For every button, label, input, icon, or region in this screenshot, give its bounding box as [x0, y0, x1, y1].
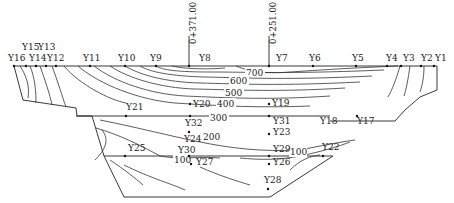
point-label-y3: Y3 — [402, 53, 415, 63]
chainage-marker-1: 0+371.00 — [188, 2, 198, 66]
point-label-y32: Y32 — [184, 118, 202, 128]
point-label-y4: Y4 — [385, 53, 398, 63]
point-label-y8: Y8 — [198, 53, 211, 63]
point-label-y25: Y25 — [127, 143, 146, 153]
contour-label-600: 600 — [230, 76, 247, 86]
point-label-y30: Y30 — [177, 145, 196, 155]
point-label-y29: Y29 — [272, 144, 291, 154]
cross-section-diagram: 0+371.00 0+251.00 — [0, 0, 454, 203]
chainage-label: 0+371.00 — [188, 2, 198, 44]
point-label-y22: Y22 — [321, 142, 339, 152]
interior-points: Y21 Y20 Y19 Y32 Y31 Y18 Y17 Y23 Y24 Y30 … — [124, 98, 375, 190]
point-label-y20: Y20 — [192, 99, 211, 109]
contour-label-400: 400 — [217, 99, 234, 109]
point-label-y14: Y14 — [28, 53, 47, 63]
point-label-y2: Y2 — [420, 53, 433, 63]
contour-lines — [20, 66, 424, 190]
contour-label-200: 200 — [203, 132, 220, 142]
point-label-y18: Y18 — [319, 116, 338, 126]
point-label-y24: Y24 — [183, 134, 202, 144]
point-label-y1: Y1 — [434, 53, 447, 63]
surface-labels: Y15 Y13 Y16 Y14 Y12 Y11 Y10 Y9 Y8 Y7 Y6 … — [7, 42, 447, 63]
contour-label-100-right: 100 — [290, 147, 307, 157]
point-label-y27: Y27 — [195, 157, 214, 167]
point-label-y17: Y17 — [356, 116, 375, 126]
point-label-y21: Y21 — [125, 102, 143, 112]
point-label-y7: Y7 — [275, 53, 288, 63]
point-label-y19: Y19 — [271, 98, 290, 108]
contour-label-300: 300 — [210, 113, 227, 123]
point-label-y26: Y26 — [272, 157, 291, 167]
chainage-label: 0+251.00 — [268, 2, 278, 44]
point-label-y5: Y5 — [351, 53, 364, 63]
point-label-y11: Y11 — [82, 53, 100, 63]
diagram-svg: 0+371.00 0+251.00 — [0, 0, 454, 203]
point-label-y23: Y23 — [272, 127, 291, 137]
contour-label-500: 500 — [225, 88, 242, 98]
point-label-y15: Y15 — [21, 42, 40, 52]
point-label-y28: Y28 — [263, 175, 282, 185]
point-label-y10: Y10 — [117, 53, 136, 63]
point-label-y31: Y31 — [272, 116, 290, 126]
point-label-y6: Y6 — [308, 53, 321, 63]
point-label-y16: Y16 — [7, 53, 26, 63]
point-label-y12: Y12 — [46, 53, 64, 63]
point-label-y9: Y9 — [149, 53, 162, 63]
point-label-y13: Y13 — [37, 42, 56, 52]
